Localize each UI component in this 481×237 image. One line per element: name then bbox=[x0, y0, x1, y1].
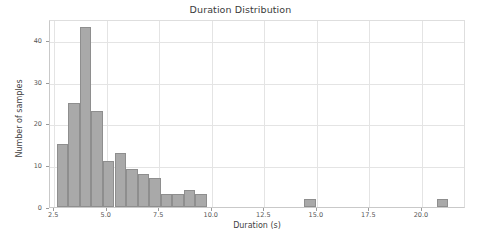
y-tick-label: 20 bbox=[0, 120, 42, 128]
x-gridline bbox=[212, 21, 213, 207]
y-tick-mark bbox=[46, 41, 49, 42]
x-gridline bbox=[264, 21, 265, 207]
histogram-bar bbox=[149, 178, 161, 207]
y-tick-mark bbox=[46, 166, 49, 167]
histogram-bar bbox=[68, 103, 80, 207]
x-tick-label: 20.0 bbox=[414, 211, 428, 219]
histogram-bar bbox=[57, 144, 69, 207]
chart-figure: Duration Distribution Number of samples … bbox=[0, 0, 481, 237]
x-axis-label: Duration (s) bbox=[49, 221, 465, 230]
y-gridline bbox=[50, 125, 464, 126]
x-gridline bbox=[317, 21, 318, 207]
histogram-bar bbox=[437, 199, 449, 207]
x-tick-mark bbox=[53, 208, 54, 211]
histogram-bar bbox=[195, 194, 207, 207]
y-tick-label: 30 bbox=[0, 79, 42, 87]
chart-title: Duration Distribution bbox=[0, 4, 481, 15]
y-tick-label: 0 bbox=[0, 204, 42, 212]
y-tick-mark bbox=[46, 124, 49, 125]
x-gridline bbox=[54, 21, 55, 207]
histogram-bar bbox=[103, 161, 115, 207]
x-gridline bbox=[422, 21, 423, 207]
histogram-bar bbox=[115, 153, 127, 207]
y-tick-mark bbox=[46, 83, 49, 84]
x-tick-label: 15.0 bbox=[309, 211, 323, 219]
x-tick-label: 2.5 bbox=[48, 211, 58, 219]
x-tick-mark bbox=[368, 208, 369, 211]
x-tick-label: 10.0 bbox=[204, 211, 218, 219]
plot-area bbox=[49, 20, 465, 208]
histogram-bar bbox=[161, 194, 173, 207]
histogram-bar bbox=[126, 169, 138, 207]
y-gridline bbox=[50, 84, 464, 85]
histogram-bar bbox=[184, 190, 196, 207]
histogram-bar bbox=[172, 194, 184, 207]
y-tick-label: 10 bbox=[0, 162, 42, 170]
histogram-bar bbox=[304, 199, 316, 207]
x-tick-mark bbox=[211, 208, 212, 211]
x-tick-mark bbox=[421, 208, 422, 211]
x-tick-mark bbox=[106, 208, 107, 211]
x-tick-label: 17.5 bbox=[361, 211, 375, 219]
y-tick-label: 40 bbox=[0, 37, 42, 45]
histogram-bar bbox=[138, 174, 150, 207]
x-tick-label: 12.5 bbox=[256, 211, 270, 219]
x-tick-mark bbox=[316, 208, 317, 211]
x-tick-mark bbox=[158, 208, 159, 211]
x-gridline bbox=[369, 21, 370, 207]
y-gridline bbox=[50, 42, 464, 43]
x-tick-label: 7.5 bbox=[153, 211, 163, 219]
x-tick-mark bbox=[263, 208, 264, 211]
x-tick-label: 5.0 bbox=[101, 211, 111, 219]
histogram-bar bbox=[91, 111, 103, 207]
histogram-bar bbox=[80, 27, 92, 207]
y-tick-mark bbox=[46, 208, 49, 209]
